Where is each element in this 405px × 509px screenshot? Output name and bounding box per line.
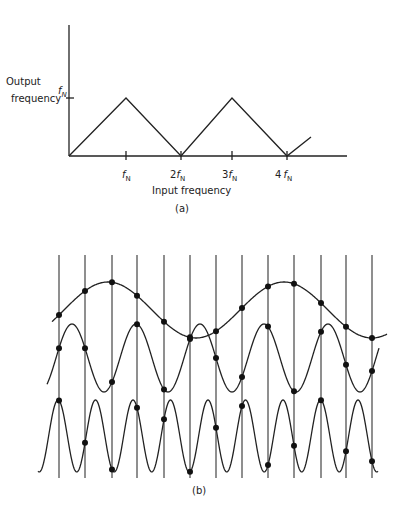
sample-dot xyxy=(109,279,115,285)
sample-dot xyxy=(134,293,140,299)
panel-a xyxy=(66,25,347,160)
sample-dot xyxy=(291,281,297,287)
high-frequency-wave xyxy=(38,400,378,472)
sample-dot xyxy=(187,469,193,475)
x-tick-label-4: 4fN xyxy=(275,169,292,183)
sample-dot xyxy=(56,345,62,351)
sample-dot xyxy=(239,374,245,380)
sample-dot xyxy=(213,355,219,361)
sample-dot xyxy=(161,416,167,422)
sample-dot xyxy=(369,368,375,374)
sample-dot xyxy=(369,335,375,341)
sample-dot xyxy=(134,321,140,327)
x-tick-label-2: 2fN xyxy=(170,169,185,183)
sample-dot xyxy=(109,466,115,472)
sample-dot xyxy=(56,398,62,404)
sample-dot xyxy=(187,336,193,342)
sample-dot xyxy=(318,397,324,403)
sample-dot xyxy=(265,283,271,289)
figure: Output frequency fN fN 2fN 3fN 4fN Input… xyxy=(0,0,405,509)
panel-a-caption: (a) xyxy=(175,203,189,214)
sinusoids xyxy=(38,282,387,472)
sample-dot xyxy=(56,312,62,318)
sample-dot xyxy=(318,329,324,335)
aliasing-curve xyxy=(69,98,311,156)
sample-dot xyxy=(265,462,271,468)
sample-dot xyxy=(239,403,245,409)
sample-dot xyxy=(291,388,297,394)
sample-dot xyxy=(82,345,88,351)
sample-dot xyxy=(343,324,349,330)
sample-dot xyxy=(369,458,375,464)
x-tick-label-1: fN xyxy=(122,169,131,183)
panel-a-labels: Output frequency fN fN 2fN 3fN 4fN Input… xyxy=(6,76,292,214)
panel-b-caption: (b) xyxy=(192,485,206,496)
sample-dot xyxy=(161,319,167,325)
sample-dot xyxy=(134,405,140,411)
sample-dot xyxy=(318,300,324,306)
x-tick-label-3: 3fN xyxy=(222,169,237,183)
sample-dot xyxy=(161,386,167,392)
sample-dot xyxy=(213,425,219,431)
y-axis-label-line1: Output xyxy=(6,76,41,87)
sample-dot xyxy=(109,379,115,385)
sample-dot xyxy=(239,305,245,311)
sample-dot xyxy=(82,440,88,446)
low-frequency-wave xyxy=(52,282,387,338)
sample-dot xyxy=(343,362,349,368)
sample-dot xyxy=(265,324,271,330)
x-axis-label: Input frequency xyxy=(152,185,231,196)
y-axis-label-line2: frequency xyxy=(11,93,61,104)
sample-dot xyxy=(82,288,88,294)
sample-dot xyxy=(343,448,349,454)
sample-dot xyxy=(213,328,219,334)
sample-dot xyxy=(291,443,297,449)
